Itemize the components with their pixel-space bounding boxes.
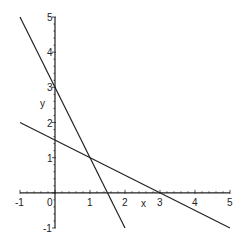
x-tick-label: 2 <box>122 197 128 208</box>
y-axis-label: y <box>40 98 45 109</box>
y-tick-label: 4 <box>47 47 53 58</box>
y-tick-label: 5 <box>47 12 53 23</box>
x-tick-label: 0 <box>47 197 53 208</box>
tick-labels: -1012345-112345 <box>15 12 233 234</box>
series-line-1 <box>20 17 125 228</box>
x-tick-label: 3 <box>157 197 163 208</box>
x-tick-label: 4 <box>192 197 198 208</box>
x-axis-label: x <box>141 198 146 209</box>
series-line-2 <box>20 123 230 229</box>
y-tick-label: -1 <box>43 223 52 234</box>
y-tick-label: 3 <box>47 82 53 93</box>
chart-canvas: -1012345-112345 x y <box>0 0 243 251</box>
x-tick-label: -1 <box>15 197 24 208</box>
y-tick-label: 2 <box>47 118 53 129</box>
y-tick-label: 1 <box>47 153 53 164</box>
x-tick-label: 5 <box>227 197 233 208</box>
x-tick-label: 1 <box>87 197 93 208</box>
